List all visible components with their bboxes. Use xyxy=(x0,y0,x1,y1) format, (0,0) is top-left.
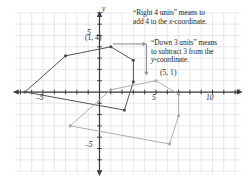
y-axis-label: y xyxy=(102,4,105,13)
x-tick-label-5: 5 xyxy=(152,93,156,102)
annotation-right-line2-a: add 4 to the xyxy=(133,17,169,26)
x-tick-label-neg5: –5 xyxy=(36,93,44,102)
y-tick-label-neg5: –5 xyxy=(85,140,93,149)
annotation-down-line3-b: -coordinate. xyxy=(154,55,189,64)
annotation-right-line2: add 4 to the x-coordinate. xyxy=(133,18,207,27)
annotation-right-units: “Right 4 units” means to add 4 to the x-… xyxy=(133,9,207,26)
coordinate-plot xyxy=(0,0,251,179)
annotation-right-line2-b: -coordinate. xyxy=(172,17,207,26)
x-tick-label-10: 10 xyxy=(206,93,214,102)
image-vertex-label: (5, 1) xyxy=(160,68,176,77)
annotation-down-line3: y-coordinate. xyxy=(151,56,217,65)
y-tick-label-5: 5 xyxy=(87,28,91,37)
figure-canvas: “Right 4 units” means to add 4 to the x-… xyxy=(0,0,251,179)
x-axis-label: x xyxy=(237,86,240,95)
annotation-down-units: “Down 3 units” means to subtract 3 from … xyxy=(151,39,217,65)
